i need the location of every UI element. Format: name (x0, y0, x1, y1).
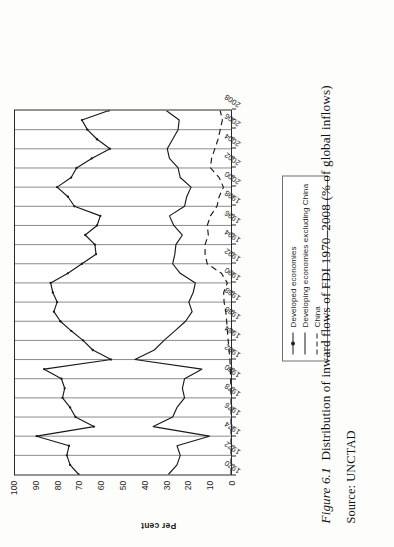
x-minor-tick-mark (232, 252, 235, 253)
x-minor-tick-mark (232, 195, 235, 196)
data-point (108, 110, 110, 111)
y-tick-label: 80 (53, 480, 63, 490)
data-point (60, 377, 62, 379)
x-minor-tick-mark (232, 272, 235, 273)
x-minor-tick-mark (232, 291, 235, 292)
x-minor-tick-mark (232, 156, 235, 157)
x-minor-tick-mark (232, 118, 235, 119)
x-minor-tick-mark (232, 464, 235, 465)
data-point (43, 367, 45, 369)
x-tick-label: 2008 (223, 92, 242, 109)
y-tick-label: 0 (227, 480, 237, 485)
series-line-developing-economies-excluding-china (135, 110, 210, 474)
scanned-page: Per cent 0102030405060708090100 19701972… (0, 0, 394, 547)
y-tick-label: 30 (162, 480, 172, 490)
x-minor-tick-mark (232, 368, 235, 369)
data-point (93, 425, 95, 427)
y-tick-label: 50 (118, 480, 128, 490)
y-tick-label: 90 (31, 480, 41, 490)
data-point (81, 118, 83, 120)
y-tick-label: 40 (140, 480, 150, 490)
data-point (56, 185, 58, 187)
legend-item-developing: Developing economies excluding China (299, 183, 311, 355)
x-minor-tick-mark (232, 214, 235, 215)
y-tick-label: 60 (96, 480, 106, 490)
x-minor-tick-mark (232, 426, 235, 427)
data-point (110, 358, 112, 360)
data-point (75, 166, 77, 168)
figure-caption: Figure 6.1 Distribution of inward flows … (318, 23, 334, 523)
x-minor-tick-mark (232, 175, 235, 176)
figure-source: Source: UNCTAD (344, 430, 359, 523)
figure-title: Distribution of inward flows of FDI 1970… (318, 85, 333, 460)
plot-frame (14, 109, 232, 475)
data-point (67, 272, 69, 274)
plot-canvas (15, 110, 231, 474)
legend-label-developed: Developed economies (289, 246, 298, 327)
data-point (49, 281, 51, 283)
series-line-developed-economies (37, 110, 112, 474)
x-minor-tick-mark (232, 310, 235, 311)
legend-label-developing: Developing economies excluding China (301, 183, 310, 327)
x-minor-tick-mark (232, 137, 235, 138)
data-point (81, 262, 83, 264)
y-tick-label: 100 (9, 480, 19, 495)
figure-number: Figure 6.1 (318, 467, 333, 523)
x-minor-tick-mark (232, 407, 235, 408)
x-minor-tick-mark (232, 330, 235, 331)
legend-swatch-solid-icon (300, 331, 310, 355)
y-tick-label: 10 (205, 480, 215, 490)
x-minor-tick-mark (232, 445, 235, 446)
x-minor-tick-mark (232, 387, 235, 388)
chart-area: Per cent 0102030405060708090100 19701972… (10, 103, 272, 523)
data-point (91, 157, 93, 159)
y-tick-label: 20 (183, 480, 193, 490)
data-point (68, 444, 70, 446)
data-point (109, 147, 111, 149)
x-minor-tick-mark (232, 233, 235, 234)
data-point (35, 435, 37, 437)
legend-item-developed: Developed economies (287, 183, 299, 355)
x-minor-tick-mark (232, 349, 235, 350)
y-tick-label: 70 (74, 480, 84, 490)
legend-swatch-solid-marker-icon (288, 331, 298, 355)
y-axis-title: Per cent (141, 520, 176, 530)
data-point (99, 214, 101, 216)
figure-rotated-container: Per cent 0102030405060708090100 19701972… (0, 0, 394, 547)
